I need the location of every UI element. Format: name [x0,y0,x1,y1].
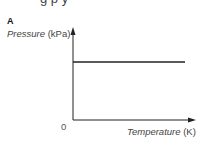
y-axis-arrow-icon [71,27,76,35]
chart-plot [0,0,203,144]
x-axis-arrow-icon [188,118,196,123]
